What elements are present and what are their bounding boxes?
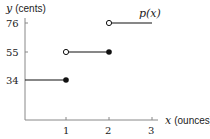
- open-dot-1-55: [63, 49, 68, 54]
- x-axis-label: x(ounces): [165, 114, 210, 127]
- closed-dot-2-55: [106, 49, 112, 55]
- x-tick-label-1: 1: [63, 125, 69, 136]
- function-label: p(x): [139, 7, 161, 20]
- x-tick-label-3: 3: [148, 125, 154, 136]
- y-tick-label-55: 55: [6, 47, 19, 58]
- x-tick-label-2: 2: [105, 125, 111, 136]
- y-axis-label: y(cents): [5, 2, 46, 15]
- step-function-chart: 76 55 34 1 2 3 y(cents) x(ounces) p(x): [0, 0, 210, 139]
- closed-dot-1-34: [63, 77, 69, 83]
- y-tick-label-76: 76: [6, 18, 19, 29]
- y-tick-label-34: 34: [6, 75, 19, 86]
- open-dot-2-76: [106, 20, 111, 25]
